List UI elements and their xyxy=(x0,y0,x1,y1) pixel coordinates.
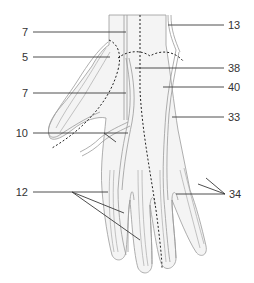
hand-illustration xyxy=(0,0,254,283)
label-5: 5 xyxy=(8,51,28,63)
label-12: 12 xyxy=(8,186,28,198)
forearm-vein-right-2 xyxy=(171,15,180,52)
label-33: 33 xyxy=(228,111,240,123)
label-7-mid: 7 xyxy=(8,87,28,99)
leader-34-branch-a xyxy=(198,184,225,194)
label-40: 40 xyxy=(228,81,240,93)
hand-anatomy-diagram: 7 5 7 10 12 13 38 40 33 34 xyxy=(0,0,254,283)
forearm-vein-right xyxy=(168,15,176,50)
label-34: 34 xyxy=(229,188,241,200)
label-38: 38 xyxy=(228,62,240,74)
leader-34-branch-b xyxy=(206,178,225,194)
label-7-top: 7 xyxy=(8,26,28,38)
label-10: 10 xyxy=(8,127,28,139)
label-13: 13 xyxy=(228,19,240,31)
